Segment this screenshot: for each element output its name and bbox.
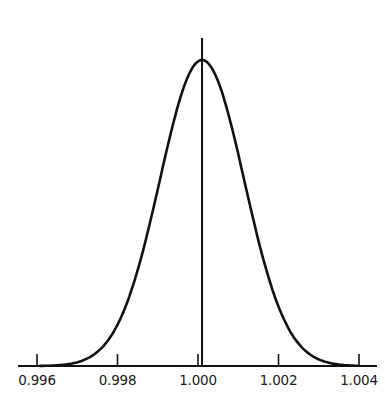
x-tick-label: 0.996	[18, 372, 56, 388]
x-tick-label: 1.004	[340, 372, 378, 388]
x-tick-label: 1.000	[179, 372, 217, 388]
normal-distribution-chart	[0, 0, 385, 419]
x-tick-label: 1.002	[260, 372, 298, 388]
distribution-curve	[40, 60, 358, 366]
x-tick-label: 0.998	[99, 372, 137, 388]
